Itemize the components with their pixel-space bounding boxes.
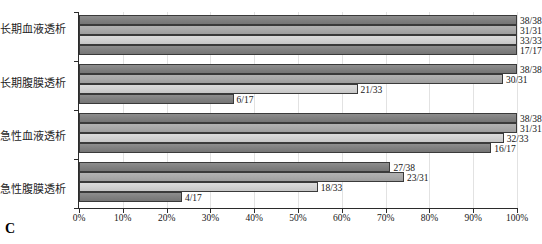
category-label-1: 长期腹膜透析 <box>0 78 76 90</box>
bar-value-label: 38/38 <box>517 16 542 26</box>
bar-series-4-category-4 <box>79 192 182 202</box>
bar-series-2-category-4 <box>79 172 404 182</box>
bar-value-label: 6/17 <box>234 95 254 105</box>
bar-series-4-category-3 <box>79 143 491 153</box>
bar-value-label: 17/17 <box>517 46 542 56</box>
x-axis-tick-labels: 0%10%20%30%40%50%60%70%80%90%100% <box>79 213 517 227</box>
x-axis-tick-label: 80% <box>421 213 438 224</box>
bar-value-label: 30/31 <box>503 75 528 85</box>
panel-letter: C <box>5 221 15 237</box>
x-axis-tick-label: 30% <box>202 213 219 224</box>
y-axis-tick <box>74 159 79 160</box>
bar-series-1-category-4 <box>79 162 390 172</box>
y-axis-tick <box>74 61 79 62</box>
bar-series-1-category-3 <box>79 113 517 123</box>
bar-series-3-category-3 <box>79 133 504 143</box>
bar-series-2-category-3 <box>79 123 517 133</box>
bar-value-label: 31/31 <box>517 26 542 36</box>
x-axis-tick-label: 60% <box>333 213 350 224</box>
plot-area: 38/3831/3133/3317/1738/3830/3121/336/173… <box>79 12 517 208</box>
bar-value-label: 32/33 <box>504 134 529 144</box>
bar-value-label: 31/31 <box>517 124 542 134</box>
bar-value-label: 18/33 <box>318 183 343 193</box>
bar-value-label: 38/38 <box>517 114 542 124</box>
x-axis-tick-label: 70% <box>377 213 394 224</box>
bar-value-label: 21/33 <box>358 85 383 95</box>
x-axis-tick-label: 100% <box>506 213 528 224</box>
bar-series-4-category-1 <box>79 45 517 55</box>
bar-value-label: 16/17 <box>491 144 516 154</box>
bar-series-1-category-2 <box>79 64 517 74</box>
y-axis-tick <box>74 12 79 13</box>
y-axis-tick <box>74 110 79 111</box>
x-axis-tick-label: 50% <box>289 213 306 224</box>
bar-series-3-category-4 <box>79 182 318 192</box>
bar-series-1-category-1 <box>79 15 517 25</box>
bar-value-label: 33/33 <box>517 36 542 46</box>
x-axis-tick-label: 90% <box>464 213 481 224</box>
category-label-2: 急性血液透析 <box>0 131 76 143</box>
bar-series-4-category-2 <box>79 94 234 104</box>
category-axis-labels: 长期血液透析 长期腹膜透析 急性血液透析 急性腹膜透析 <box>0 0 76 215</box>
bar-value-label: 4/17 <box>182 193 202 203</box>
y-axis-tick <box>74 208 79 209</box>
bar-series-3-category-2 <box>79 84 358 94</box>
bar-series-3-category-1 <box>79 35 517 45</box>
category-label-0: 长期血液透析 <box>0 24 76 36</box>
bar-value-label: 23/31 <box>404 173 429 183</box>
x-axis-tick-label: 20% <box>158 213 175 224</box>
x-axis-tick-label: 40% <box>245 213 262 224</box>
bar-value-label: 38/38 <box>517 65 542 75</box>
x-axis-tick-label: 10% <box>114 213 131 224</box>
bar-value-label: 27/38 <box>390 163 415 173</box>
x-axis-tick-label: 0% <box>73 213 86 224</box>
bar-series-2-category-2 <box>79 74 503 84</box>
category-label-3: 急性腹膜透析 <box>0 184 76 196</box>
bar-series-2-category-1 <box>79 25 517 35</box>
